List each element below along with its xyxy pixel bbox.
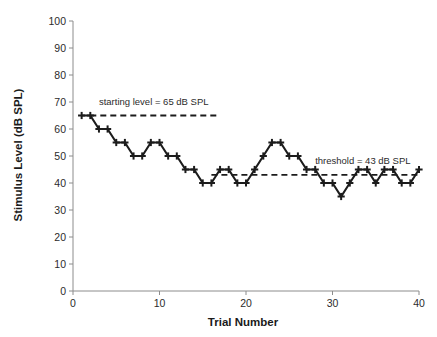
y-tick-label: 100: [48, 15, 66, 27]
y-axis-title: Stimulus Level (dB SPL): [12, 88, 24, 221]
y-tick-label: 80: [54, 69, 66, 81]
x-tick-label: 30: [327, 297, 339, 309]
x-tick-label: 20: [240, 297, 252, 309]
y-tick-label: 40: [54, 177, 66, 189]
y-tick-label: 20: [54, 231, 66, 243]
x-tick-label: 40: [413, 297, 425, 309]
annotation-label-threshold: threshold = 43 dB SPL: [315, 155, 410, 166]
x-axis-title: Trial Number: [208, 316, 279, 328]
y-tick-label: 30: [54, 204, 66, 216]
annotation-label-starting-level: starting level = 65 dB SPL: [99, 96, 209, 107]
y-tick-label: 90: [54, 42, 66, 54]
chart-figure: 0102030405060708090100 010203040 startin…: [0, 0, 437, 337]
y-tick-label: 60: [54, 123, 66, 135]
y-tick-label: 0: [60, 285, 66, 297]
y-tick-label: 50: [54, 150, 66, 162]
x-tick-label: 10: [154, 297, 166, 309]
y-tick-label: 10: [54, 258, 66, 270]
y-tick-label: 70: [54, 96, 66, 108]
x-tick-label: 0: [70, 297, 76, 309]
stimulus-level-line-chart: 0102030405060708090100 010203040 startin…: [0, 0, 437, 337]
